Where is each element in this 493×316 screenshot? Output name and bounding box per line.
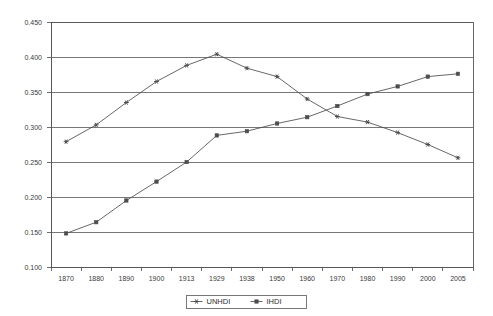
chart-container: 0.4500.4000.3500.3000.2500.2000.1500.100… bbox=[0, 0, 493, 316]
y-axis-tick-label: 0.300 bbox=[24, 124, 42, 131]
x-axis-ticks bbox=[51, 267, 473, 271]
y-axis-tick-label: 0.100 bbox=[24, 264, 42, 271]
data-point-star-marker bbox=[214, 52, 219, 56]
y-axis-tick-label: 0.400 bbox=[24, 54, 42, 61]
data-point-square-marker bbox=[155, 180, 158, 183]
data-point-square-marker bbox=[336, 104, 339, 107]
data-point-square-marker bbox=[275, 122, 278, 125]
x-axis-tick-label: 1970 bbox=[330, 275, 346, 282]
x-axis-tick-label: 1960 bbox=[299, 275, 315, 282]
x-axis-tick-label: 2000 bbox=[420, 275, 436, 282]
legend-box bbox=[187, 295, 307, 308]
x-axis-tick-label: 1890 bbox=[119, 275, 135, 282]
data-point-star-marker bbox=[456, 156, 461, 160]
y-axis-tick-labels: 0.4500.4000.3500.3000.2500.2000.1500.100 bbox=[24, 19, 42, 271]
data-point-square-marker bbox=[64, 232, 67, 235]
x-axis-tick-label: 1938 bbox=[239, 275, 255, 282]
gridlines-group bbox=[51, 22, 473, 267]
data-point-square-marker bbox=[215, 134, 218, 137]
chart-legend: UNHDIIHDI bbox=[187, 295, 307, 308]
data-point-square-marker bbox=[396, 85, 399, 88]
series-line bbox=[66, 54, 458, 158]
x-axis-tick-label: 1913 bbox=[179, 275, 195, 282]
data-point-square-marker bbox=[125, 199, 128, 202]
data-point-star-marker bbox=[425, 142, 430, 146]
x-axis-tick-label: 1870 bbox=[58, 275, 74, 282]
data-point-square-marker bbox=[185, 160, 188, 163]
y-axis-tick-label: 0.250 bbox=[24, 159, 42, 166]
x-axis-tick-label: 1880 bbox=[88, 275, 104, 282]
y-axis-tick-label: 0.450 bbox=[24, 19, 42, 26]
x-axis-tick-label: 2005 bbox=[450, 275, 466, 282]
data-point-star-marker bbox=[64, 140, 69, 144]
series-unhdi bbox=[64, 52, 461, 160]
data-point-square-marker bbox=[426, 75, 429, 78]
data-point-star-marker bbox=[395, 131, 400, 135]
data-point-square-marker bbox=[456, 72, 459, 75]
line-chart: 0.4500.4000.3500.3000.2500.2000.1500.100… bbox=[0, 0, 493, 316]
data-point-star-marker bbox=[184, 63, 189, 67]
x-axis-tick-label: 1929 bbox=[209, 275, 225, 282]
plot-frame bbox=[51, 22, 473, 267]
data-point-square-marker bbox=[306, 116, 309, 119]
y-axis-ticks bbox=[47, 22, 51, 267]
x-axis-tick-label: 1990 bbox=[390, 275, 406, 282]
y-axis-tick-label: 0.350 bbox=[24, 89, 42, 96]
y-axis-tick-label: 0.150 bbox=[24, 229, 42, 236]
x-axis-tick-labels: 1870188018901900191319291938195019601970… bbox=[58, 275, 466, 282]
data-point-square-marker bbox=[245, 130, 248, 133]
series-ihdi bbox=[64, 72, 459, 235]
y-axis-tick-label: 0.200 bbox=[24, 194, 42, 201]
x-axis-tick-label: 1950 bbox=[269, 275, 285, 282]
data-point-square-marker bbox=[255, 300, 258, 303]
legend-label-ihdi: IHDI bbox=[267, 297, 282, 306]
legend-label-unhdi: UNHDI bbox=[207, 297, 231, 306]
data-point-star-marker bbox=[245, 66, 250, 70]
plot-area-border bbox=[51, 22, 473, 267]
x-axis-tick-label: 1900 bbox=[149, 275, 165, 282]
series-group bbox=[64, 52, 461, 235]
data-point-square-marker bbox=[95, 221, 98, 224]
series-line bbox=[66, 74, 458, 234]
data-point-square-marker bbox=[366, 92, 369, 95]
x-axis-tick-label: 1980 bbox=[360, 275, 376, 282]
data-point-star-marker bbox=[365, 120, 370, 124]
